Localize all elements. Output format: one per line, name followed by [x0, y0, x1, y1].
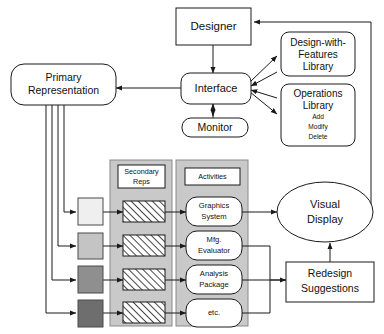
connector-primary-to-swatch-2 [58, 105, 76, 246]
redesign-suggestions-label-line2: Suggestions [301, 282, 359, 294]
operations-library-op-delete: Delete [308, 133, 327, 140]
redesign-suggestions-label-line1: Redesign [308, 267, 353, 279]
etc-label-line1: etc. [208, 308, 220, 317]
hatched-box-1[interactable] [123, 201, 165, 222]
swatch-2[interactable] [78, 233, 103, 259]
dwf-library-label-line3: Library [303, 61, 334, 72]
visual-display-label-line1: Visual [310, 198, 340, 210]
mfg-evaluator-label-line2: Evaluator [198, 246, 231, 255]
monitor-label: Monitor [197, 121, 233, 133]
visual-display-label-line2: Display [307, 213, 344, 225]
operations-library-op-add: Add [312, 113, 324, 120]
block-diagram: Designer Interface Monitor Primary Repre… [0, 0, 384, 334]
primary-representation-label-line2: Representation [28, 84, 99, 96]
hatched-box-3[interactable] [123, 269, 165, 290]
operations-library-op-modify: Modify [308, 123, 328, 131]
activities-header-line1: Activities [198, 172, 227, 181]
connector-interface-to-ops-library [250, 92, 277, 114]
interface-label: Interface [195, 82, 238, 94]
connector-primary-to-swatch-4 [46, 105, 76, 313]
analysis-package-label-line1: Analysis [200, 269, 228, 278]
secondary-reps-header-line2: Reps [133, 177, 150, 186]
swatch-3[interactable] [78, 266, 103, 293]
analysis-package-label-line2: Package [199, 280, 229, 289]
secondary-reps-header-line1: Secondary [124, 167, 159, 176]
operations-library-label-line2: Library [303, 100, 334, 111]
dwf-library-label-line2: Features [298, 49, 337, 60]
connector-dwf-library-to-interface [251, 72, 277, 86]
connector-interface-to-dwf-library [250, 56, 277, 82]
designer-label: Designer [190, 20, 236, 32]
operations-library-label-line1: Operations [294, 88, 343, 99]
hatched-box-4[interactable] [123, 302, 165, 323]
dwf-library-label-line1: Design-with- [290, 37, 346, 48]
diagram-canvas: Designer Interface Monitor Primary Repre… [0, 0, 384, 334]
graphics-system-label-line2: System [201, 212, 226, 221]
swatch-4[interactable] [78, 300, 103, 327]
connector-ops-library-to-interface [251, 90, 277, 98]
swatch-1[interactable] [78, 198, 103, 225]
connector-primary-to-swatch-1 [64, 105, 76, 212]
primary-representation-label-line1: Primary [45, 71, 82, 83]
hatched-box-2[interactable] [123, 235, 165, 256]
graphics-system-label-line1: Graphics [199, 201, 230, 210]
mfg-evaluator-label-line1: Mfg. [207, 235, 222, 244]
